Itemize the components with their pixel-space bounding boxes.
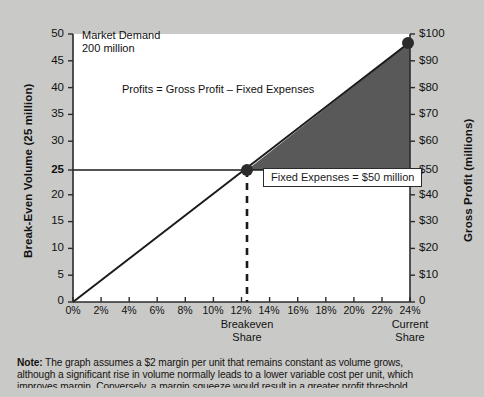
y-right-tick-70: $70 bbox=[419, 107, 438, 119]
x-tick-4: 4% bbox=[114, 304, 144, 316]
y-right-tick-40: $40 bbox=[419, 188, 438, 200]
note-line-2: although a significant rise in volume no… bbox=[17, 369, 472, 381]
x-tick-0: 0% bbox=[58, 304, 88, 316]
x-tick-18: 18% bbox=[311, 304, 341, 316]
figure-note: Note: The graph assumes a $2 margin per … bbox=[17, 357, 472, 388]
breakeven-point-marker bbox=[241, 164, 253, 176]
current-share-line2: Share bbox=[365, 331, 455, 344]
x-tick-12: 12% bbox=[226, 304, 256, 316]
note-line-3: improves margin. Conversely, a margin sq… bbox=[17, 381, 472, 388]
note-line-1: Note: The graph assumes a $2 margin per … bbox=[17, 357, 472, 369]
profits-formula-annotation: Profits = Gross Profit – Fixed Expenses bbox=[122, 83, 314, 95]
x-tick-8: 8% bbox=[170, 304, 200, 316]
y-left-tick-25: 25 bbox=[42, 163, 64, 175]
breakeven-share-line1: Breakeven bbox=[202, 318, 292, 331]
x-tick-2: 2% bbox=[86, 304, 116, 316]
y-left-tick-45: 45 bbox=[42, 54, 64, 66]
y-right-tick-20: $20 bbox=[419, 241, 438, 253]
market-demand-line1: Market Demand bbox=[82, 29, 160, 42]
market-demand-line2: 200 million bbox=[82, 42, 160, 55]
current-share-point-marker bbox=[402, 37, 414, 49]
x-tick-22: 22% bbox=[367, 304, 397, 316]
y-left-tick-30: 30 bbox=[42, 134, 64, 146]
break-even-chart-figure: 50 45 40 35 30 25 20 15 10 5 0 $100 $90 … bbox=[0, 0, 484, 352]
note-lead: Note: bbox=[17, 357, 43, 368]
y-right-tick-100: $100 bbox=[419, 27, 445, 39]
x-tick-6: 6% bbox=[142, 304, 172, 316]
y-axis-left-title: Break-Even Volume (25 million) bbox=[22, 83, 34, 258]
current-share-line1: Current bbox=[365, 318, 455, 331]
breakeven-share-line2: Share bbox=[202, 331, 292, 344]
x-tick-20: 20% bbox=[339, 304, 369, 316]
y-left-tick-40: 40 bbox=[42, 81, 64, 93]
y-left-tick-20: 20 bbox=[42, 188, 64, 200]
y-right-tick-10: $10 bbox=[419, 268, 438, 280]
current-share-label: Current Share bbox=[365, 318, 455, 344]
y-right-tick-90: $90 bbox=[419, 54, 438, 66]
fixed-expenses-callout: Fixed Expenses = $50 million bbox=[263, 168, 422, 187]
x-tick-14: 14% bbox=[254, 304, 284, 316]
y-left-tick-15: 15 bbox=[42, 214, 64, 226]
y-right-tick-80: $80 bbox=[419, 81, 438, 93]
x-tick-10: 10% bbox=[198, 304, 228, 316]
x-tick-16: 16% bbox=[283, 304, 313, 316]
breakeven-share-label: Breakeven Share bbox=[202, 318, 292, 344]
y-axis-right-title: Gross Profit (millions) bbox=[462, 119, 474, 242]
y-left-tick-5: 5 bbox=[42, 268, 64, 280]
y-right-tick-30: $30 bbox=[419, 214, 438, 226]
y-left-tick-50: 50 bbox=[42, 27, 64, 39]
x-tick-24: 24% bbox=[395, 304, 425, 316]
note-line-1-text: The graph assumes a $2 margin per unit t… bbox=[43, 357, 404, 368]
y-left-tick-10: 10 bbox=[42, 241, 64, 253]
y-left-tick-35: 35 bbox=[42, 107, 64, 119]
y-right-tick-60: $60 bbox=[419, 134, 438, 146]
market-demand-annotation: Market Demand 200 million bbox=[82, 29, 160, 55]
